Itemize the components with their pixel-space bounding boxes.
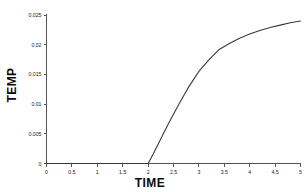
x-tick-label: 0.5: [68, 169, 75, 175]
x-axis-title: TIME: [120, 176, 180, 190]
x-tick-label: 2.5: [170, 169, 177, 175]
chart-tick-marks: [44, 15, 301, 167]
x-tick-label: 2: [147, 169, 150, 175]
y-tick-label: 0.025: [0, 12, 42, 18]
chart-container: 00.0050.010.0150.020.025 00.511.522.533.…: [0, 0, 307, 192]
chart-plot-area: [0, 0, 307, 192]
x-tick-label: 4.5: [271, 169, 278, 175]
chart-data-line: [47, 21, 301, 164]
chart-axes: [47, 14, 301, 164]
x-tick-label: 1: [96, 169, 99, 175]
y-tick-label: 0.02: [0, 42, 42, 48]
x-tick-label: 5: [299, 169, 302, 175]
x-tick-label: 3: [197, 169, 200, 175]
x-tick-label: 3.5: [221, 169, 228, 175]
y-tick-label: 0.005: [0, 131, 42, 137]
x-tick-label: 4: [248, 169, 251, 175]
x-tick-label: 0: [45, 169, 48, 175]
y-tick-label: 0: [0, 161, 42, 167]
x-tick-label: 1.5: [119, 169, 126, 175]
y-axis-title: TEMP: [5, 61, 19, 109]
